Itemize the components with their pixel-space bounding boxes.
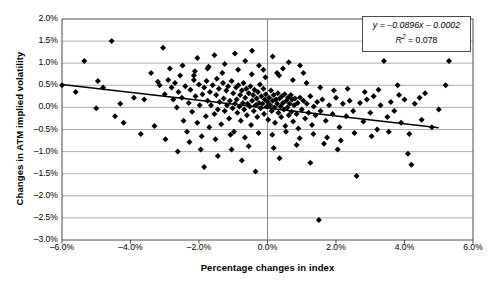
scatter-point	[199, 91, 205, 97]
scatter-point	[191, 73, 197, 79]
scatter-point	[141, 96, 147, 102]
scatter-point	[310, 131, 316, 137]
scatter-point	[345, 86, 351, 92]
scatter-point	[203, 113, 209, 119]
scatter-point	[375, 87, 381, 93]
x-axis-tick-label: 6.0%	[443, 243, 495, 252]
scatter-point	[192, 68, 198, 74]
scatter-point	[177, 73, 183, 79]
scatter-point	[419, 117, 425, 123]
scatter-point	[350, 108, 356, 114]
scatter-point	[162, 136, 168, 142]
scatter-point	[369, 133, 375, 139]
scatter-point	[324, 134, 330, 140]
scatter-point	[174, 104, 180, 110]
scatter-point	[364, 96, 370, 102]
scatter-point	[300, 70, 306, 76]
scatter-point	[249, 71, 255, 77]
r-squared-line: R2 = 0.078	[367, 32, 466, 47]
scatter-point	[211, 52, 217, 58]
scatter-point	[406, 131, 412, 137]
scatter-point	[221, 96, 227, 102]
scatter-point	[307, 160, 313, 166]
scatter-point	[302, 115, 308, 121]
scatter-point	[211, 111, 217, 117]
scatter-point	[182, 83, 188, 89]
scatter-point	[138, 131, 144, 137]
scatter-point	[204, 78, 210, 84]
scatter-point	[175, 149, 181, 155]
scatter-point	[395, 82, 401, 88]
scatter-point	[282, 123, 288, 129]
scatter-point	[215, 153, 221, 159]
scatter-point	[286, 59, 292, 65]
scatter-point	[226, 115, 232, 121]
scatter-point	[374, 127, 380, 133]
scatter-point	[384, 114, 390, 120]
scatter-point	[242, 95, 248, 101]
scatter-point	[186, 139, 192, 145]
scatter-point	[175, 89, 181, 95]
scatter-point	[112, 113, 118, 119]
scatter-point	[422, 90, 428, 96]
scatter-point	[151, 123, 157, 129]
scatter-point	[272, 120, 278, 126]
scatter-point	[321, 141, 327, 147]
r-squared-text: R2 = 0.078	[396, 35, 438, 45]
scatter-point	[234, 110, 240, 116]
scatter-point	[117, 101, 123, 107]
scatter-point	[357, 100, 363, 106]
scatter-point	[73, 89, 79, 95]
scatter-point	[443, 82, 449, 88]
scatter-point	[248, 122, 254, 128]
scatter-point	[207, 89, 213, 95]
scatter-chart: Changes in ATM implied volatility 2.0%1.…	[0, 0, 495, 282]
x-axis-tick-label: –4.0%	[101, 243, 161, 252]
scatter-point	[417, 95, 423, 101]
regression-equation-box: y = –0.0896x – 0.0002 R2 = 0.078	[362, 16, 471, 52]
scatter-point	[347, 98, 353, 104]
scatter-point	[402, 96, 408, 102]
scatter-point	[216, 86, 222, 92]
x-axis-title: Percentage changes in index	[62, 262, 473, 273]
scatter-point	[232, 50, 238, 56]
scatter-point	[238, 118, 244, 124]
scatter-point	[290, 77, 296, 83]
scatter-point	[323, 118, 329, 124]
scatter-point	[331, 88, 337, 94]
scatter-point	[412, 101, 418, 107]
scatter-point	[181, 118, 187, 124]
scatter-point	[194, 55, 200, 61]
scatter-point	[242, 134, 248, 140]
scatter-point	[260, 86, 266, 92]
scatter-point	[222, 108, 228, 114]
scatter-point	[219, 70, 225, 76]
x-axis-tick-label: 2.0%	[306, 243, 366, 252]
scatter-point	[210, 82, 216, 88]
scatter-point	[213, 92, 219, 98]
scatter-point	[256, 130, 262, 136]
scatter-point	[189, 109, 195, 115]
scatter-point	[362, 89, 368, 95]
scatter-point	[239, 157, 245, 163]
scatter-point	[319, 96, 325, 102]
scatter-point	[251, 108, 257, 114]
x-axis-tick-label: –6.0%	[32, 243, 92, 252]
scatter-point	[388, 99, 394, 105]
regression-equation-line: y = –0.0896x – 0.0002	[367, 20, 466, 32]
scatter-point	[294, 142, 300, 148]
scatter-point	[314, 99, 320, 105]
scatter-point	[269, 132, 275, 138]
scatter-point	[265, 117, 271, 123]
scatter-point	[201, 164, 207, 170]
scatter-point	[218, 121, 224, 127]
scatter-point	[187, 87, 193, 93]
x-axis-tick-label: 0.0%	[238, 243, 298, 252]
scatter-point	[254, 114, 260, 120]
scatter-point	[160, 45, 166, 51]
scatter-point	[338, 138, 344, 144]
scatter-point	[167, 66, 173, 72]
scatter-point	[367, 110, 373, 116]
scatter-point	[121, 120, 127, 126]
scatter-point	[311, 104, 317, 110]
